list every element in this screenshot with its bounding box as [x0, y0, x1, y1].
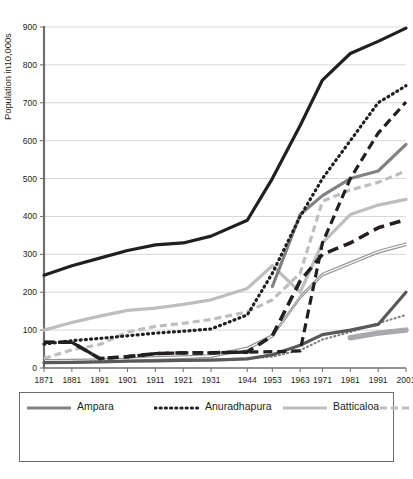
x-tick-label: 1991 [369, 375, 388, 385]
x-axis-ticks: 1871188118911901191119211931194419531963… [35, 368, 413, 385]
legend-swatch-batticaloa [282, 400, 328, 412]
x-tick-label: 1953 [263, 375, 282, 385]
plot-area: 0100200300400500600700800900 18711881189… [0, 0, 413, 392]
y-tick-label: 400 [23, 211, 37, 221]
y-tick-label: 900 [23, 22, 37, 32]
y-axis-ticks: 0100200300400500600700800900 [23, 22, 37, 373]
x-tick-label: 1911 [146, 375, 165, 385]
legend-label: Batticaloa [333, 401, 379, 412]
y-tick-label: 800 [23, 60, 37, 70]
x-tick-label: 1921 [174, 375, 193, 385]
legend-item-hambantota[interactable]: Hambantota [379, 399, 413, 414]
population-line-chart: Population in10,000s 0100200300400500600… [0, 0, 413, 479]
x-tick-label: 1891 [90, 375, 109, 385]
x-tick-label: 1971 [313, 375, 332, 385]
y-tick-label: 600 [23, 136, 37, 146]
x-tick-label: 1881 [62, 375, 81, 385]
x-tick-label: 1944 [238, 375, 257, 385]
plot-svg: 0100200300400500600700800900 18711881189… [0, 0, 413, 392]
legend-item-batticaloa[interactable]: Batticaloa [282, 399, 379, 414]
y-tick-label: 700 [23, 98, 37, 108]
legend-swatch-ampara [26, 400, 72, 412]
x-tick-label: 1981 [341, 375, 360, 385]
x-tick-label: 1901 [118, 375, 137, 385]
y-tick-label: 0 [32, 363, 37, 373]
x-tick-label: 1963 [291, 375, 310, 385]
y-tick-label: 300 [23, 249, 37, 259]
legend-grid: AmparaAnuradhapuraBatticaloaHambantotaJa… [26, 399, 389, 457]
x-tick-label: 1931 [202, 375, 221, 385]
y-tick-label: 200 [23, 287, 37, 297]
legend-swatch-hambantota [379, 400, 413, 412]
data-series-group [44, 28, 406, 363]
legend-item-anuradhapura[interactable]: Anuradhapura [154, 399, 282, 414]
y-tick-label: 500 [23, 174, 37, 184]
x-tick-label: 1871 [35, 375, 54, 385]
series-line-ampara [272, 144, 406, 286]
legend-item-ampara[interactable]: Ampara [26, 399, 154, 414]
legend-label: Anuradhapura [205, 401, 272, 412]
x-tick-label: 2001 [397, 375, 413, 385]
y-tick-label: 100 [23, 325, 37, 335]
legend-swatch-anuradhapura [154, 400, 200, 412]
legend-label: Ampara [77, 401, 114, 412]
series-line-trincomalee [44, 243, 406, 360]
series-line-batticaloa [44, 199, 406, 330]
series-line-mullaitivu [350, 330, 406, 338]
chart-legend: AmparaAnuradhapuraBatticaloaHambantotaJa… [19, 392, 394, 462]
